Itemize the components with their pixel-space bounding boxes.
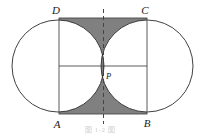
figure-container: D C A B P 图 1-2 图 bbox=[0, 0, 200, 140]
geometry-diagram: D C A B P bbox=[0, 0, 200, 140]
figure-caption: 图 1-2 图 bbox=[0, 126, 200, 135]
label-c: C bbox=[141, 4, 149, 16]
label-p: P bbox=[105, 71, 111, 81]
label-d: D bbox=[51, 4, 60, 16]
